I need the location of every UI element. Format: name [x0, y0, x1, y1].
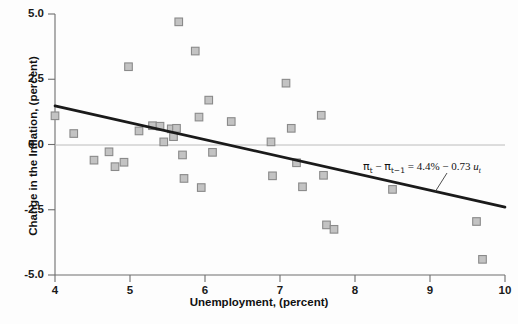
- y-tick-label: -5.0: [0, 268, 44, 280]
- data-point-marker: [173, 125, 181, 133]
- data-point-marker: [105, 148, 113, 156]
- data-point-marker: [135, 127, 143, 135]
- x-tick-marks: [55, 275, 505, 282]
- x-tick-label: 4: [35, 284, 75, 296]
- data-point-marker: [269, 172, 277, 180]
- equation-leader-line: [435, 173, 447, 192]
- regression-equation-annotation: πt − πt−1 = 4.4% − 0.73 ut: [363, 160, 481, 175]
- data-point-marker: [191, 47, 199, 55]
- x-tick-label: 6: [185, 284, 225, 296]
- equation-pi-t: πt: [363, 160, 373, 173]
- x-tick-label: 8: [335, 284, 375, 296]
- y-axis-title: Change in the Inflation, (percent): [27, 31, 39, 261]
- x-tick-label: 9: [410, 284, 450, 296]
- data-point-marker: [287, 125, 295, 133]
- data-point-marker: [479, 256, 487, 264]
- trendline-group: [55, 106, 505, 207]
- data-point-marker: [120, 158, 128, 166]
- data-point-marker: [180, 175, 188, 183]
- x-axis-title: Unemployment, (percent): [0, 296, 518, 308]
- x-tick-label: 5: [110, 284, 150, 296]
- data-point-marker: [282, 79, 290, 87]
- regression-trendline: [55, 106, 505, 207]
- data-point-marker: [125, 63, 133, 71]
- equation-minus-2: −: [442, 160, 448, 172]
- equation-pi-t-minus-1: πt−1: [384, 160, 405, 173]
- axes: [55, 14, 505, 275]
- chart-figure: -5.0-2.50.02.55.0 45678910 πt − πt−1 = 4…: [0, 0, 518, 324]
- data-point-marker: [179, 151, 187, 159]
- data-point-marker: [299, 183, 307, 191]
- equation-slope: 0.73: [451, 160, 470, 172]
- data-point-marker: [323, 221, 331, 229]
- data-point-marker: [70, 130, 78, 138]
- data-point-marker: [320, 171, 328, 179]
- data-point-marker: [111, 163, 119, 171]
- data-point-marker: [51, 112, 59, 120]
- y-tick-marks: [48, 14, 55, 275]
- data-point-marker: [330, 226, 338, 234]
- data-point-marker: [317, 111, 325, 119]
- data-point-marker: [90, 156, 98, 164]
- data-point-marker: [389, 186, 397, 194]
- data-point-marker: [197, 184, 205, 192]
- data-point-marker: [160, 138, 168, 146]
- equation-minus-1: −: [375, 160, 381, 172]
- x-tick-label: 7: [260, 284, 300, 296]
- equation-u-t: ut: [473, 160, 481, 172]
- data-point-marker: [209, 149, 217, 157]
- equation-intercept: 4.4%: [417, 160, 440, 172]
- data-points-group: [51, 18, 486, 263]
- data-point-marker: [175, 18, 183, 26]
- data-point-marker: [473, 218, 481, 226]
- data-point-marker: [267, 138, 275, 146]
- equation-equals: =: [408, 160, 414, 172]
- data-point-marker: [195, 113, 203, 121]
- y-tick-label: 5.0: [0, 7, 44, 19]
- data-point-marker: [205, 96, 213, 104]
- x-tick-label: 10: [485, 284, 518, 296]
- data-point-marker: [227, 118, 235, 126]
